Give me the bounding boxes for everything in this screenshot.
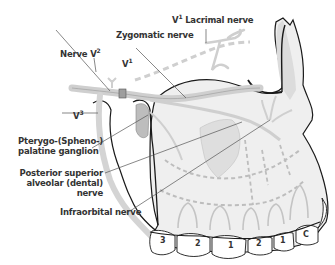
- nerve-ring: [119, 89, 126, 98]
- label-zygomatic-nerve: Zygomatic nerve: [116, 30, 194, 40]
- label-nerve-v2: Nerve V2: [60, 46, 101, 59]
- label-v1: V1: [122, 56, 132, 69]
- tooth-label-premolar-1: 1: [228, 241, 234, 250]
- label-pterygopalatine-ganglion: Pterygo-(Spheno-) palatine ganglion: [18, 136, 103, 156]
- tooth-label-molar-2: 2: [256, 239, 262, 248]
- tooth-label-molar-1: 1: [280, 236, 286, 245]
- v1-stub: [108, 78, 116, 88]
- label-infraorbital-nerve: Infraorbital nerve: [60, 207, 141, 217]
- label-v3: V3: [73, 108, 83, 121]
- tooth-label-canine: C: [303, 230, 309, 239]
- tooth-label-premolar-2: 2: [195, 239, 201, 248]
- tooth-label-premolar-3: 3: [160, 236, 166, 245]
- label-v1-lacrimal-nerve: V1 Lacrimal nerve: [172, 12, 253, 25]
- label-posterior-superior-alveolar-nerve: Posterior superior alveolar (dental) ner…: [19, 168, 103, 198]
- nerve-v1-dashed: [135, 42, 250, 80]
